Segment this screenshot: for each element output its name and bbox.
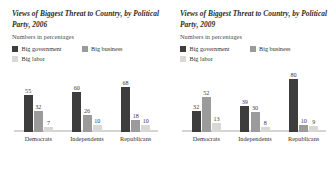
- bar-wrapper: 52: [202, 68, 211, 132]
- bar-value-label: 10: [94, 118, 100, 125]
- bar: [289, 79, 298, 132]
- bar-wrapper: 18: [131, 68, 140, 132]
- bar: [34, 111, 43, 132]
- legend-label: Big labor: [190, 55, 213, 62]
- bar: [44, 127, 53, 132]
- bar-group: 325213: [182, 68, 231, 132]
- x-axis-labels: DemocratsIndependentsRepublicans: [14, 135, 160, 142]
- dual-chart-figure: Views of Biggest Threat to Country, by P…: [0, 0, 336, 178]
- legend-label: Big business: [259, 45, 290, 52]
- bar-wrapper: 30: [251, 68, 260, 132]
- bar-value-label: 55: [25, 88, 31, 95]
- bar: [202, 97, 211, 132]
- bar-wrapper: 10: [299, 68, 308, 132]
- x-axis-label: Democrats: [14, 135, 63, 142]
- legend-swatch-big-government-icon: [12, 46, 18, 52]
- bar-wrapper: 55: [24, 68, 33, 132]
- bar: [261, 127, 270, 132]
- chart-title: Views of Biggest Threat to Country, by P…: [180, 9, 328, 30]
- chart-title: Views of Biggest Threat to Country, by P…: [12, 9, 160, 30]
- bar: [212, 123, 221, 132]
- bar-wrapper: 10: [141, 68, 150, 132]
- bar-wrapper: 8: [261, 68, 270, 132]
- x-axis-label: Independents: [63, 135, 112, 142]
- bar: [131, 120, 140, 132]
- bar-value-label: 7: [47, 120, 50, 127]
- bar-wrapper: 13: [212, 68, 221, 132]
- bar-wrapper: 80: [289, 68, 298, 132]
- bar-group: 80109: [279, 68, 328, 132]
- bar-value-label: 26: [84, 108, 90, 115]
- bar-value-label: 39: [242, 99, 248, 106]
- legend-item-big-labor: Big labor: [180, 55, 213, 62]
- bar-wrapper: 10: [93, 68, 102, 132]
- legend-item-big-labor: Big labor: [12, 55, 45, 62]
- bar-wrapper: 60: [72, 68, 81, 132]
- legend-swatch-big-business-icon: [250, 46, 256, 52]
- x-axis-label: Republicans: [111, 135, 160, 142]
- legend-swatch-big-labor-icon: [180, 56, 186, 62]
- bar-value-label: 18: [133, 113, 139, 120]
- bar-value-label: 52: [203, 90, 209, 97]
- bar: [24, 95, 33, 132]
- legend-swatch-big-labor-icon: [12, 56, 18, 62]
- bar: [141, 125, 150, 132]
- chart-subtitle: Numbers in percentages: [180, 33, 328, 40]
- legend-item-big-government: Big government: [12, 45, 62, 52]
- chart-legend: Big government Big business Big labor: [12, 45, 160, 62]
- bar-group: 602610: [63, 68, 112, 132]
- legend-item-big-government: Big government: [180, 45, 230, 52]
- bar-value-label: 8: [264, 120, 267, 127]
- bar-group: 681810: [111, 68, 160, 132]
- bar-wrapper: 26: [83, 68, 92, 132]
- bar: [83, 115, 92, 132]
- bar: [93, 125, 102, 132]
- legend-label: Big business: [91, 45, 122, 52]
- legend-item-big-business: Big business: [82, 45, 123, 52]
- bar-wrapper: 32: [34, 68, 43, 132]
- legend-swatch-big-business-icon: [82, 46, 88, 52]
- legend-label: Big government: [22, 45, 62, 52]
- plot-area: 3252133930880109: [182, 68, 328, 132]
- bar-value-label: 13: [213, 116, 219, 123]
- x-axis-label: Democrats: [182, 135, 231, 142]
- bar-wrapper: 7: [44, 68, 53, 132]
- bar-value-label: 68: [122, 80, 128, 87]
- bar-value-label: 10: [143, 118, 149, 125]
- bar-wrapper: 39: [240, 68, 249, 132]
- x-axis-labels: DemocratsIndependentsRepublicans: [182, 135, 328, 142]
- bar-value-label: 30: [252, 105, 258, 112]
- bar: [240, 106, 249, 132]
- bar: [192, 111, 201, 132]
- bar: [121, 87, 130, 132]
- bar-group: 55327: [14, 68, 63, 132]
- bar-value-label: 32: [193, 104, 199, 111]
- legend-label: Big labor: [22, 55, 45, 62]
- x-axis-label: Independents: [231, 135, 280, 142]
- bar-value-label: 10: [301, 118, 307, 125]
- chart-panel-2009: Views of Biggest Threat to Country, by P…: [168, 0, 336, 178]
- x-axis-label: Republicans: [279, 135, 328, 142]
- chart-subtitle: Numbers in percentages: [12, 33, 160, 40]
- legend-swatch-big-government-icon: [180, 46, 186, 52]
- bar-value-label: 80: [290, 72, 296, 79]
- bar-value-label: 32: [35, 104, 41, 111]
- bar-value-label: 60: [74, 85, 80, 92]
- plot-area: 55327602610681810: [14, 68, 160, 132]
- bar-wrapper: 9: [309, 68, 318, 132]
- chart-panel-2006: Views of Biggest Threat to Country, by P…: [0, 0, 168, 178]
- legend-label: Big government: [190, 45, 230, 52]
- bar-value-label: 9: [312, 119, 315, 126]
- bar: [251, 112, 260, 132]
- bar-wrapper: 32: [192, 68, 201, 132]
- bar: [299, 125, 308, 132]
- legend-item-big-business: Big business: [250, 45, 291, 52]
- bar: [72, 92, 81, 132]
- bar: [309, 126, 318, 132]
- chart-legend: Big government Big business Big labor: [180, 45, 328, 62]
- bar-wrapper: 68: [121, 68, 130, 132]
- bar-group: 39308: [231, 68, 280, 132]
